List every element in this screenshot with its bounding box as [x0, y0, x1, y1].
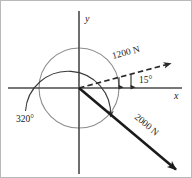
- force-1200-vector: [79, 63, 171, 88]
- diagram-canvas: y x 1200 N 2000 N 15° 320°: [1, 1, 192, 178]
- force-vector-diagram: y x 1200 N 2000 N 15° 320°: [0, 0, 192, 178]
- force-2000-vector: [79, 88, 176, 170]
- angle-320-arc: [26, 71, 111, 117]
- y-axis-label: y: [84, 13, 90, 24]
- force-1200-label: 1200 N: [111, 44, 141, 61]
- x-axis-label: x: [173, 90, 179, 101]
- angle-15-label: 15°: [139, 75, 153, 85]
- force-2000-label: 2000 N: [133, 112, 161, 138]
- angle-320-label: 320°: [16, 114, 34, 124]
